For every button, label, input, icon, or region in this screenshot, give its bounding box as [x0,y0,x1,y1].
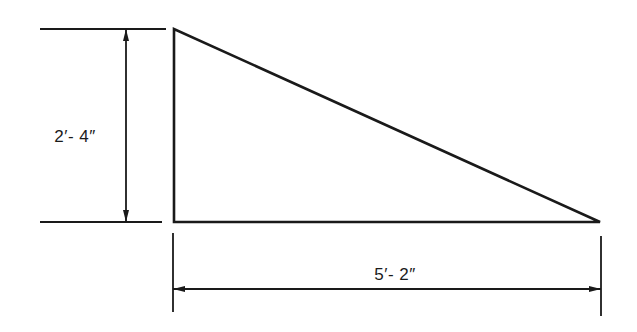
height-dimension [40,29,166,222]
drawing-svg [0,0,637,332]
base-dimension-label: 5′- 2″ [374,265,416,285]
right-triangle-shape [174,29,600,222]
dimension-drawing: 2′- 4″ 5′- 2″ [0,0,637,332]
height-dimension-label: 2′- 4″ [54,127,96,147]
